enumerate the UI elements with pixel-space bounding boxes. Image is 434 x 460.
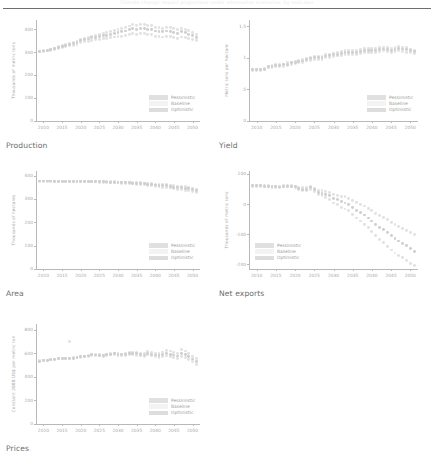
legend-item-baseline[interactable]: Baseline xyxy=(367,101,414,106)
data-point-base xyxy=(124,30,127,33)
x-tick-label: 2050 xyxy=(184,273,202,278)
panel-prices: 0200400600800201020152020202520302035204… xyxy=(6,318,206,442)
data-point-base xyxy=(57,46,60,49)
data-point-opt xyxy=(394,223,397,226)
x-tick xyxy=(81,424,82,426)
data-point-opt xyxy=(397,225,400,228)
y-axis-title: Thousands of metric tons xyxy=(224,171,229,269)
data-point-base xyxy=(413,250,416,253)
legend-swatch-pessimistic xyxy=(367,95,386,100)
legend-label-optimistic: Optimistic xyxy=(171,107,193,112)
legend-item-optimistic[interactable]: Optimistic xyxy=(367,108,414,113)
data-point-pess xyxy=(324,196,327,199)
data-point-opt xyxy=(351,199,354,202)
legend-item-optimistic[interactable]: Optimistic xyxy=(149,108,196,113)
x-tick-label: 2020 xyxy=(72,428,90,433)
legend-item-optimistic[interactable]: Optimistic xyxy=(149,411,196,416)
data-point-opt xyxy=(135,24,138,27)
legend-label-pessimistic: Pessimistic xyxy=(171,95,195,100)
x-tick xyxy=(276,269,277,271)
panel-caption-net_exports: Net exports xyxy=(219,289,264,298)
x-tick-label: 2010 xyxy=(34,428,52,433)
data-point-base xyxy=(195,360,198,363)
legend-item-baseline[interactable]: Baseline xyxy=(149,249,196,254)
x-tick-label: 2010 xyxy=(248,273,266,278)
data-point-base xyxy=(397,240,400,243)
legend-item-optimistic[interactable]: Optimistic xyxy=(149,256,196,261)
x-tick xyxy=(43,424,44,426)
data-point-opt xyxy=(347,197,350,200)
data-point-base xyxy=(328,194,331,197)
legend-item-pessimistic[interactable]: Pessimistic xyxy=(367,95,414,100)
legend-item-pessimistic[interactable]: Pessimistic xyxy=(149,95,196,100)
data-point-base xyxy=(64,357,67,360)
data-point-pess xyxy=(191,38,194,41)
data-point-pess xyxy=(120,35,123,38)
data-point-base xyxy=(351,206,354,209)
data-point-base xyxy=(286,63,289,66)
data-point-pess xyxy=(105,37,108,40)
data-point-opt xyxy=(146,24,149,27)
data-point-pess xyxy=(401,256,404,259)
data-point-base xyxy=(324,193,327,196)
data-point-opt xyxy=(169,355,172,358)
data-point-pess xyxy=(332,202,335,205)
x-tick xyxy=(43,269,44,271)
data-point-opt xyxy=(328,191,331,194)
data-point-opt xyxy=(180,27,183,30)
legend-item-pessimistic[interactable]: Pessimistic xyxy=(149,243,196,248)
x-tick xyxy=(353,269,354,271)
x-tick-label: 2025 xyxy=(90,428,108,433)
y-tick xyxy=(34,199,36,200)
legend-item-baseline[interactable]: Baseline xyxy=(149,404,196,409)
data-point-base xyxy=(184,31,187,34)
data-point-base xyxy=(195,36,198,39)
data-point-opt xyxy=(172,27,175,30)
data-point-base xyxy=(382,228,385,231)
data-point-base xyxy=(124,353,127,356)
legend-swatch-pessimistic xyxy=(149,243,168,248)
data-point-base xyxy=(340,200,343,203)
data-point-base xyxy=(154,30,157,33)
x-tick-label: 2040 xyxy=(363,125,381,130)
data-point-base xyxy=(102,34,105,37)
data-point-base xyxy=(169,185,172,188)
legend-item-pessimistic[interactable]: Pessimistic xyxy=(255,243,302,248)
data-point-base xyxy=(139,182,142,185)
data-point-opt xyxy=(184,28,187,31)
x-tick xyxy=(81,269,82,271)
y-tick xyxy=(34,377,36,378)
x-tick-label: 2045 xyxy=(382,273,400,278)
x-tick-label: 2025 xyxy=(90,273,108,278)
data-point-pess xyxy=(340,206,343,209)
x-tick xyxy=(118,269,119,271)
data-point-base xyxy=(139,353,142,356)
data-point-opt xyxy=(184,356,187,359)
data-point-pess xyxy=(363,223,366,226)
y-tick xyxy=(247,121,249,122)
data-point-pess xyxy=(165,35,168,38)
x-tick-label: 2045 xyxy=(165,428,183,433)
data-point-base xyxy=(169,30,172,33)
data-point-base xyxy=(68,357,71,360)
data-point-opt xyxy=(374,212,377,215)
data-point-base xyxy=(87,180,90,183)
data-point-base xyxy=(184,353,187,356)
data-point-pess xyxy=(359,220,362,223)
y-axis-line xyxy=(36,20,37,121)
data-point-pess xyxy=(363,51,366,54)
data-point-base xyxy=(98,35,101,38)
data-point-pess xyxy=(184,36,187,39)
legend-item-baseline[interactable]: Baseline xyxy=(149,101,196,106)
legend-label-baseline: Baseline xyxy=(277,249,296,254)
y-tick xyxy=(247,89,249,90)
data-point-opt xyxy=(370,209,373,212)
data-point-pess xyxy=(131,32,134,35)
data-point-opt xyxy=(355,201,358,204)
data-point-base xyxy=(374,223,377,226)
x-tick xyxy=(137,121,138,123)
legend-item-pessimistic[interactable]: Pessimistic xyxy=(149,398,196,403)
legend-item-baseline[interactable]: Baseline xyxy=(255,249,302,254)
data-point-base xyxy=(409,247,412,250)
legend-item-optimistic[interactable]: Optimistic xyxy=(255,256,302,261)
